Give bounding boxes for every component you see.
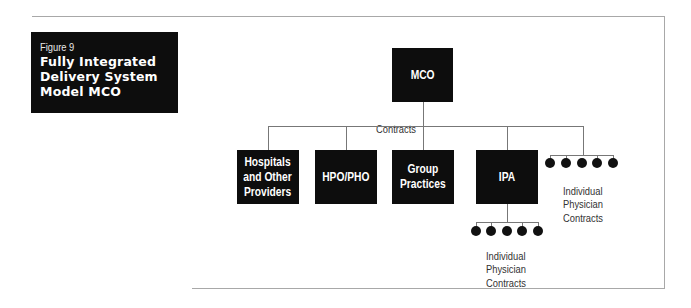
frame-top-rule bbox=[32, 16, 665, 17]
frame-bottom-rule bbox=[192, 288, 665, 289]
ipa-contracts-label: Individual Physician Contracts bbox=[486, 236, 533, 290]
node-mco: MCO bbox=[392, 48, 453, 102]
direct-contracts-label: Individual Physician Contracts bbox=[563, 171, 610, 225]
physician-dot-icon bbox=[608, 158, 618, 168]
physician-dot-icon bbox=[502, 226, 512, 236]
connector-direct-contracts bbox=[583, 126, 584, 155]
figure-number: Figure 9 bbox=[40, 41, 157, 54]
physician-dot-icon bbox=[471, 226, 481, 236]
connector-ipa-down bbox=[507, 204, 508, 222]
connector-hospitals bbox=[268, 126, 269, 150]
physician-dot-icon bbox=[545, 158, 555, 168]
node-mco-label: MCO bbox=[411, 68, 435, 83]
connector-ipa bbox=[507, 126, 508, 150]
physician-dot-icon bbox=[577, 158, 587, 168]
ipa-contracts-bar bbox=[476, 222, 538, 223]
connector-hpo bbox=[346, 126, 347, 150]
physician-dot-icon bbox=[486, 226, 496, 236]
node-hospitals: Hospitals and Other Providers bbox=[237, 150, 299, 204]
connector-horizontal bbox=[268, 126, 583, 127]
physician-dot-icon bbox=[533, 226, 543, 236]
physician-dot-icon bbox=[592, 158, 602, 168]
node-group-practices: Group Practices bbox=[392, 150, 454, 204]
node-hpo-pho: HPO/PHO bbox=[315, 150, 377, 204]
physician-dot-icon bbox=[561, 158, 571, 168]
node-ipa: IPA bbox=[476, 150, 538, 204]
frame-right-rule bbox=[664, 16, 665, 289]
figure-title: Fully Integrated Delivery System Model M… bbox=[40, 54, 178, 99]
direct-contracts-bar bbox=[550, 155, 613, 156]
connector-label-contracts: Contracts bbox=[376, 109, 423, 136]
figure-caption-box: Figure 9 Fully Integrated Delivery Syste… bbox=[31, 32, 178, 113]
physician-dot-icon bbox=[517, 226, 527, 236]
